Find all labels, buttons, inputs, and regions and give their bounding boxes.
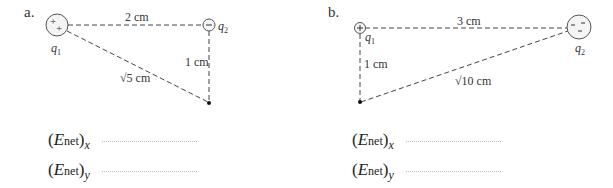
answer-a-ex: (Enet)x <box>48 130 197 150</box>
symbol: E <box>358 130 368 149</box>
q1-label: q1 <box>51 41 61 57</box>
answer-b-ex: (Enet)x <box>352 130 501 150</box>
problem-a-label: a. <box>24 4 34 20</box>
answer-b-ey: (Enet)y <box>352 160 501 180</box>
distance-horizontal: 2 cm <box>125 10 149 24</box>
component: x <box>84 138 89 152</box>
field-point <box>358 100 362 104</box>
q2-label: q2 <box>575 41 585 57</box>
q2-label: q2 <box>218 19 228 35</box>
symbol: E <box>54 130 64 149</box>
problem-b-label: b. <box>328 4 339 20</box>
subscript: net <box>368 134 383 148</box>
problem-a: a. + + q1 q2 2 cm 1 cm √5 cm <box>24 4 228 105</box>
subscript: net <box>64 134 79 148</box>
problem-b: b. q1 q2 3 cm 1 cm √10 cm <box>328 4 591 104</box>
answer-blank[interactable] <box>102 171 197 172</box>
distance-vertical: 1 cm <box>364 57 388 71</box>
distance-horizontal: 3 cm <box>457 14 481 28</box>
answer-blank[interactable] <box>406 171 501 172</box>
symbol: E <box>54 160 64 179</box>
component: x <box>388 138 393 152</box>
distance-diagonal: √10 cm <box>455 74 492 88</box>
symbol: E <box>358 160 368 179</box>
component: y <box>388 168 393 182</box>
distance-diagonal: √5 cm <box>120 71 151 85</box>
subscript: net <box>64 164 79 178</box>
charge-q2 <box>567 15 591 39</box>
distance-vertical: 1 cm <box>185 55 209 69</box>
answer-blank[interactable] <box>102 141 197 142</box>
field-point <box>207 101 211 105</box>
component: y <box>84 168 89 182</box>
plus-sign: + <box>56 22 62 34</box>
line-q2-point <box>361 31 568 102</box>
q1-label: q1 <box>365 30 375 46</box>
answer-a-ey: (Enet)y <box>48 160 197 180</box>
subscript: net <box>368 164 383 178</box>
answer-blank[interactable] <box>406 141 501 142</box>
